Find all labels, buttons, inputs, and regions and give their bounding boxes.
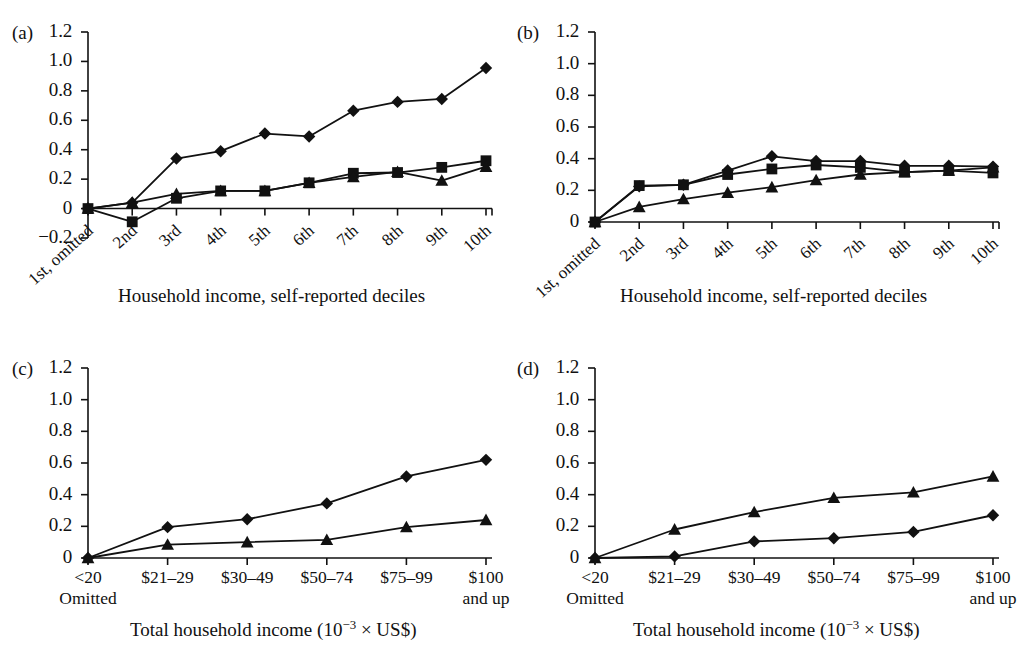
y-axis-tick-label: 1.0 [26,388,72,410]
panel-b-xaxis-title: Household income, self-reported deciles [620,285,927,307]
y-axis-tick-label: 0 [26,197,72,219]
panel-a: (a) Household income, self-reported deci… [0,0,513,336]
x-axis-tick-label: $50–74 [789,567,879,588]
y-axis-tick-label: 0.4 [26,483,72,505]
y-axis-tick-label: 1.2 [533,20,579,42]
y-axis-tick-label: 0.4 [533,483,579,505]
panel-b: (b) Household income, self-reported deci… [505,0,1027,336]
x-axis-tick-label: $30–49 [202,567,292,588]
panel-c-xaxis-title: Total household income (10−3 × US$) [130,619,416,641]
y-axis-tick-label: 0.4 [533,147,579,169]
x-axis-tick-label: $50–74 [282,567,372,588]
y-axis-tick-label: 0.4 [26,138,72,160]
figure-panel-grid: (a) Household income, self-reported deci… [0,0,1027,672]
x-axis-tick-label: $30–49 [709,567,799,588]
x-axis-tick-label: $21–29 [630,567,720,588]
y-axis-tick-label: 0.2 [26,167,72,189]
x-axis-tick-label: <20 [550,567,640,588]
panel-d: (d) Total household income (10−3 × US$) … [505,336,1027,672]
y-axis-tick-label: 0.8 [533,83,579,105]
y-axis-tick-label: 1.0 [533,388,579,410]
panel-a-xaxis-title: Household income, self-reported deciles [118,285,425,307]
y-axis-tick-label: 0.6 [533,115,579,137]
y-axis-tick-label: 0.8 [533,419,579,441]
y-axis-tick-label: 0.2 [533,514,579,536]
y-axis-tick-label: 0.6 [26,451,72,473]
y-axis-tick-label: 1.0 [533,52,579,74]
y-axis-tick-label: 1.2 [26,356,72,378]
y-axis-tick-label: 0 [533,546,579,568]
x-axis-tick-sublabel: and up [948,588,1027,609]
y-axis-tick-label: 0.2 [533,178,579,200]
y-axis-tick-label: 1.2 [26,20,72,42]
y-axis-tick-label: 1.2 [533,356,579,378]
y-axis-tick-label: 1.0 [26,49,72,71]
y-axis-tick-label: 0.6 [26,108,72,130]
y-axis-tick-label: 0.8 [26,79,72,101]
panel-d-xaxis-title: Total household income (10−3 × US$) [633,619,919,641]
x-axis-tick-label: $75–99 [868,567,958,588]
y-axis-tick-label: 0 [533,210,579,232]
y-axis-tick-label: 0 [26,546,72,568]
x-axis-tick-sublabel: Omitted [550,588,640,609]
y-axis-tick-label: 0.8 [26,419,72,441]
x-axis-tick-label: $100 [948,567,1027,588]
x-axis-tick-label: <20 [43,567,133,588]
x-axis-tick-label: $21–29 [123,567,213,588]
panel-c: (c) Total household income (10−3 × US$) … [0,336,513,672]
x-axis-tick-sublabel: Omitted [43,588,133,609]
y-axis-tick-label: 0.6 [533,451,579,473]
y-axis-tick-label: 0.2 [26,514,72,536]
x-axis-tick-label: $75–99 [361,567,451,588]
